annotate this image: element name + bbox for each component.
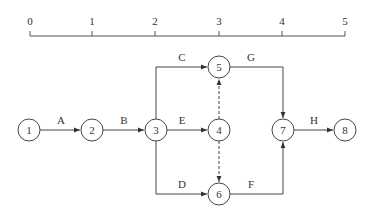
tick-label: 4 (279, 15, 285, 27)
tick-label: 2 (152, 15, 158, 27)
tick-label: 3 (216, 15, 222, 27)
node-label: 1 (26, 124, 32, 136)
edge-label-g: G (247, 51, 255, 63)
edge-label-e: E (179, 114, 186, 126)
node-5: 5 (208, 56, 230, 78)
node-label: 6 (216, 188, 222, 200)
tick-label: 1 (89, 15, 95, 27)
tick-label: 5 (342, 15, 348, 27)
edge-label-b: B (120, 114, 127, 126)
node-label: 7 (280, 124, 286, 136)
tick-label: 0 (27, 15, 33, 27)
node-label: 8 (342, 124, 348, 136)
edge-c (156, 67, 207, 119)
node-label: 5 (216, 61, 222, 73)
node-7: 7 (272, 119, 294, 141)
node-4: 4 (208, 119, 230, 141)
edge-label-f: F (248, 178, 254, 190)
node-6: 6 (208, 183, 230, 205)
edge-g (230, 67, 283, 118)
network-diagram: 0 1 2 3 4 5 (0, 0, 371, 218)
timeline-tick-4: 4 (279, 15, 285, 36)
edge-label-h: H (310, 114, 318, 126)
node-2: 2 (81, 119, 103, 141)
timeline-tick-5: 5 (342, 15, 348, 36)
timeline-tick-1: 1 (89, 15, 95, 36)
edge-label-a: A (57, 114, 65, 126)
timeline-tick-2: 2 (152, 15, 158, 36)
node-label: 3 (153, 124, 159, 136)
node-8: 8 (334, 119, 356, 141)
edge-label-d: D (178, 178, 186, 190)
edge-label-c: C (178, 51, 185, 63)
node-label: 4 (216, 124, 222, 136)
node-label: 2 (89, 124, 95, 136)
timeline-axis: 0 1 2 3 4 5 (27, 15, 348, 36)
edge-f (230, 142, 283, 194)
timeline-tick-3: 3 (216, 15, 222, 36)
node-3: 3 (145, 119, 167, 141)
timeline-tick-0: 0 (27, 15, 33, 36)
node-1: 1 (18, 119, 40, 141)
